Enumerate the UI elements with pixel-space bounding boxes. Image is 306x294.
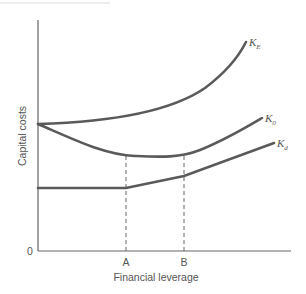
tick-label-b: B (180, 256, 187, 268)
capital-costs-chart: KE K0 Kd 0 A B Financial leverage Capita… (0, 0, 306, 294)
tick-label-a: A (122, 256, 129, 268)
label-kd: Kd (276, 137, 288, 152)
y-axis-title: Capital costs (16, 106, 28, 166)
x-axis-title: Financial leverage (113, 271, 198, 283)
curve-ke (38, 42, 246, 124)
origin-label: 0 (27, 245, 33, 257)
curve-k0 (38, 118, 262, 157)
label-k0: K0 (264, 112, 276, 127)
label-ke: KE (248, 36, 261, 51)
curve-kd (38, 143, 274, 188)
